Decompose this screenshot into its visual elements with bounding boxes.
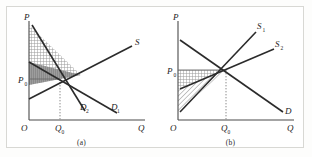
quantity-tick-sub: 0 [228, 129, 231, 135]
quantity-tick-sub: 0 [62, 129, 65, 135]
supply-curve-2 [180, 49, 274, 89]
supply-curve-2-label: S [275, 39, 280, 49]
origin-label: O [170, 123, 177, 133]
x-axis-label: Q [287, 123, 294, 133]
price-tick-sub: 0 [174, 72, 177, 78]
demand-curve-2-sub: 2 [86, 108, 89, 114]
supply-curve-2-sub: 2 [281, 45, 284, 51]
demand-curve-label: D [284, 106, 292, 116]
panel-b-caption: (b) [156, 138, 305, 147]
figure-frame: P Q O P 0 Q 0 S D 1 D 2 (a) [6, 6, 304, 148]
panel-a-caption: (a) [7, 138, 156, 147]
y-axis-label: P [23, 12, 30, 22]
price-tick-sub: 0 [25, 81, 28, 87]
y-axis-label: P [172, 12, 179, 22]
supply-curve-1-sub: 1 [263, 27, 266, 33]
origin-label: O [21, 123, 28, 133]
supply-curve-1-label: S [257, 21, 262, 31]
panel-a-plot: P Q O P 0 Q 0 S D 1 D 2 [7, 7, 156, 149]
demand-curve-1-sub: 1 [117, 108, 120, 114]
price-tick-label: P [166, 66, 173, 76]
economics-figure: P Q O P 0 Q 0 S D 1 D 2 (a) [0, 0, 312, 157]
supply-curve-label: S [135, 37, 140, 47]
price-tick-label: P [17, 75, 24, 85]
panel-b-plot: P Q O P 0 Q 0 D S 1 S 2 [156, 7, 305, 149]
panel-b: P Q O P 0 Q 0 D S 1 S 2 (b) [156, 7, 305, 149]
x-axis-label: Q [138, 123, 145, 133]
panel-a: P Q O P 0 Q 0 S D 1 D 2 (a) [7, 7, 156, 149]
